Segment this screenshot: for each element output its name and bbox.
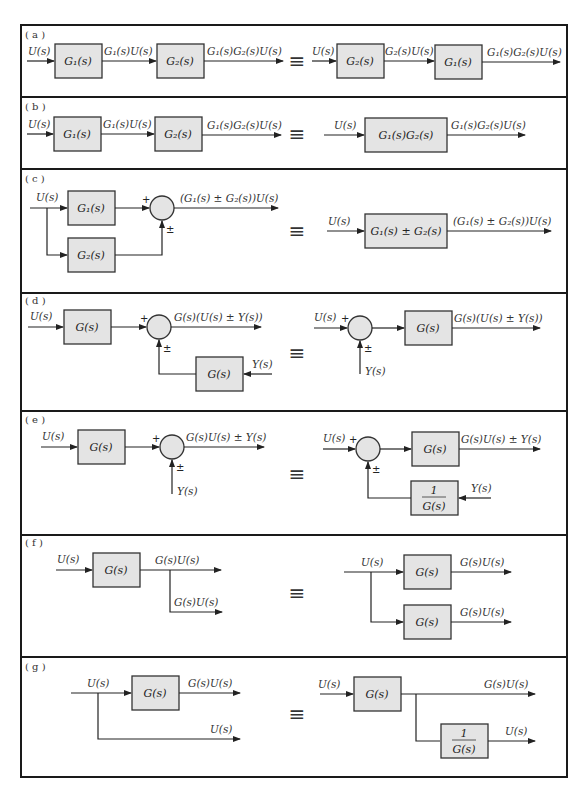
panel-tag: ( b )	[25, 101, 46, 112]
equivalence-symbol: ≡	[289, 341, 306, 365]
block-numerator: 1	[461, 727, 468, 740]
output-label-bottom: U(s)	[505, 725, 527, 737]
plus-minus-sign: ±	[364, 343, 372, 354]
plus-minus-sign: ±	[163, 343, 171, 354]
input-label: U(s)	[57, 553, 79, 565]
plus-sign: +	[140, 313, 148, 324]
block-label: G₁(s)	[77, 202, 104, 215]
block-label: G(s)	[143, 687, 166, 700]
input-label: U(s)	[314, 311, 336, 323]
panel-a: ( a ) U(s) G₁(s) G₁(s)U(s) G₂(s) G₁(s)G₂…	[25, 29, 562, 79]
output-label-top: G(s)U(s)	[188, 677, 232, 689]
input-label: U(s)	[323, 432, 345, 444]
signal-label: G₁(s)U(s)	[104, 45, 153, 57]
summing-junction	[160, 435, 184, 459]
signal-label: G₁(s)U(s)	[103, 118, 152, 130]
output-label: G(s)U(s) ± Y(s)	[186, 431, 266, 443]
panel-c: ( c ) U(s) G₁(s) G₂(s) + ± (G₁(s) ± G₂(s…	[25, 173, 551, 272]
block-label: G₂(s)	[164, 128, 191, 141]
equivalence-symbol: ≡	[289, 702, 306, 726]
input-label: U(s)	[312, 45, 334, 57]
summing-junction	[356, 437, 380, 461]
plus-sign: +	[341, 313, 349, 324]
block-denominator: G(s)	[452, 743, 475, 756]
output-label: (G₁(s) ± G₂(s))U(s)	[180, 192, 278, 204]
block-label: G₁(s) ± G₂(s)	[370, 225, 441, 238]
branch-wire	[416, 694, 440, 741]
side-input-label: Y(s)	[177, 485, 198, 497]
panel-tag: ( g )	[25, 661, 46, 672]
block-label: G(s)	[423, 443, 446, 456]
output-label-top: G(s)U(s)	[484, 678, 528, 690]
branch-arrow	[371, 572, 403, 622]
input-label: U(s)	[28, 45, 50, 57]
block-label: G₂(s)	[166, 55, 193, 68]
output-label: G₁(s)G₂(s)U(s)	[487, 46, 562, 58]
block-label: G₁(s)G₂(s)	[379, 129, 434, 142]
side-input-label: Y(s)	[471, 482, 492, 494]
panel-tag: ( d )	[25, 295, 46, 306]
input-label: U(s)	[28, 118, 50, 130]
block-label: G(s)	[365, 688, 388, 701]
output-label-bottom: U(s)	[210, 723, 232, 735]
block-label: G₂(s)	[77, 249, 104, 262]
summing-junction	[150, 196, 174, 220]
output-label-bottom: G(s)U(s)	[460, 606, 504, 618]
block-diagram-figure: ( a ) U(s) G₁(s) G₁(s)U(s) G₂(s) G₁(s)G₂…	[0, 0, 587, 799]
input-label: U(s)	[87, 677, 109, 689]
block-label: G(s)	[104, 564, 127, 577]
output-label: G₁(s)G₂(s)U(s)	[451, 119, 526, 131]
summing-junction	[147, 315, 171, 339]
block-numerator: 1	[431, 484, 438, 497]
output-label: G(s)U(s) ± Y(s)	[461, 433, 541, 445]
plus-minus-sign: ±	[176, 462, 184, 473]
input-label: U(s)	[36, 191, 58, 203]
summing-junction	[348, 316, 372, 340]
plus-sign: +	[349, 434, 357, 445]
equivalence-symbol: ≡	[289, 581, 306, 605]
panel-tag: ( a )	[25, 29, 45, 40]
output-label-top: G(s)U(s)	[155, 554, 199, 566]
output-label-top: G(s)U(s)	[460, 556, 504, 568]
equivalence-symbol: ≡	[289, 122, 306, 146]
block-label: G(s)	[207, 368, 230, 381]
input-label: U(s)	[318, 678, 340, 690]
plus-sign: +	[152, 433, 160, 444]
block-label: G(s)	[89, 441, 112, 454]
block-label: G(s)	[415, 566, 438, 579]
input-label: U(s)	[30, 310, 52, 322]
branch-arrow	[47, 208, 67, 255]
output-label: G(s)(U(s) ± Y(s))	[174, 311, 263, 323]
input-label: U(s)	[361, 556, 383, 568]
output-label: G₁(s)G₂(s)U(s)	[207, 119, 282, 131]
side-input-label: Y(s)	[365, 365, 386, 377]
output-label: (G₁(s) ± G₂(s))U(s)	[453, 215, 551, 227]
block-label: G₁(s)	[64, 55, 91, 68]
block-label: G₁(s)	[63, 128, 90, 141]
panel-tag: ( c )	[25, 173, 45, 184]
equivalence-symbol: ≡	[289, 49, 306, 73]
panel-tag: ( f )	[25, 537, 43, 548]
block-label: G(s)	[75, 321, 98, 334]
block-label: G(s)	[415, 616, 438, 629]
panel-f: ( f ) U(s) G(s) G(s)U(s) G(s)U(s) ≡ U(s)…	[25, 537, 511, 639]
plus-minus-sign: ±	[372, 464, 380, 475]
plus-minus-sign: ±	[166, 224, 174, 235]
output-label: G(s)(U(s) ± Y(s))	[454, 312, 543, 324]
plus-sign: +	[142, 194, 150, 205]
input-label: U(s)	[328, 215, 350, 227]
side-input-label: Y(s)	[252, 358, 273, 370]
output-label: G₁(s)G₂(s)U(s)	[207, 45, 282, 57]
panel-g: ( g ) U(s) G(s) G(s)U(s) U(s) ≡ U(s) G(s…	[25, 661, 535, 758]
panel-b: ( b ) U(s) G₁(s) G₁(s)U(s) G₂(s) G₁(s)G₂…	[25, 101, 526, 152]
panel-d: ( d ) U(s) G(s) + ± G(s)(U(s) ± Y(s)) G(…	[25, 295, 543, 391]
block-label: G₂(s)	[346, 55, 373, 68]
panel-e: ( e ) U(s) G(s) + ± Y(s) G(s)U(s) ± Y(s)…	[25, 414, 541, 515]
signal-label: G₂(s)U(s)	[385, 45, 434, 57]
equivalence-symbol: ≡	[289, 462, 306, 486]
block-label: G₁(s)	[444, 56, 471, 69]
input-label: U(s)	[42, 430, 64, 442]
input-label: U(s)	[334, 119, 356, 131]
equivalence-symbol: ≡	[289, 219, 306, 243]
output-label-bottom: G(s)U(s)	[174, 596, 218, 608]
